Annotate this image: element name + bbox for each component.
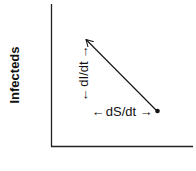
- phase-diagram: Infecteds ← dI/dt → ← dS/dt →: [0, 0, 196, 171]
- ds-dt-left-arrow-icon: ←: [92, 104, 105, 119]
- ds-dt-label: dS/dt: [106, 104, 137, 119]
- ds-dt-right-arrow-icon: →: [140, 104, 153, 119]
- di-dt-annotation: ← dI/dt →: [76, 46, 91, 102]
- trajectory-arrow: [86, 40, 157, 112]
- di-dt-label: dI/dt: [76, 61, 91, 87]
- di-dt-left-arrow-icon: ←: [76, 89, 91, 102]
- di-dt-right-arrow-icon: →: [76, 46, 91, 59]
- state-point: [155, 109, 160, 114]
- y-axis-label: Infecteds: [7, 46, 22, 103]
- ds-dt-annotation: ← dS/dt →: [92, 104, 153, 119]
